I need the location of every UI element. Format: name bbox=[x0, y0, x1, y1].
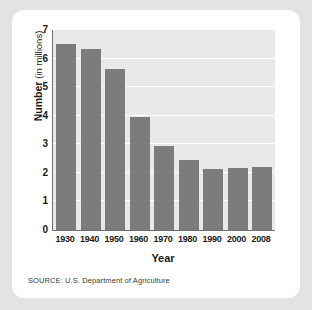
y-axis-label: Number (in millions) bbox=[32, 6, 44, 146]
y-axis-label-bold: Number bbox=[32, 82, 44, 122]
y-tick-label: 2 bbox=[32, 168, 48, 178]
chart-card: 76543210 Number (in millions) 1930194019… bbox=[12, 10, 300, 298]
bar-1970 bbox=[154, 146, 174, 230]
x-tick-label: 2000 bbox=[227, 234, 247, 244]
bar-1930 bbox=[56, 44, 76, 230]
x-tick-label: 1960 bbox=[129, 234, 149, 244]
bar-1960 bbox=[130, 117, 150, 230]
x-tick-label: 1940 bbox=[80, 234, 100, 244]
source-note: SOURCE: U.S. Department of Agriculture bbox=[28, 276, 170, 285]
bar-1940 bbox=[81, 49, 101, 230]
x-tick-label: 1970 bbox=[153, 234, 173, 244]
bar-series bbox=[53, 30, 275, 230]
x-tick-label: 1930 bbox=[55, 234, 75, 244]
x-tick-label: 1950 bbox=[104, 234, 124, 244]
bar-2008 bbox=[252, 167, 272, 230]
x-tick-label: 1980 bbox=[178, 234, 198, 244]
bar-2000 bbox=[228, 168, 248, 230]
bar-1980 bbox=[179, 160, 199, 230]
bar-chart-figure: 76543210 Number (in millions) 1930194019… bbox=[12, 10, 300, 298]
bar-1950 bbox=[105, 69, 125, 230]
plot-area bbox=[52, 30, 275, 231]
y-tick-label: 1 bbox=[32, 196, 48, 206]
x-axis-label: Year bbox=[52, 252, 274, 264]
bar-1990 bbox=[203, 169, 223, 230]
x-tick-label: 1990 bbox=[202, 234, 222, 244]
y-axis-label-unit: (in millions) bbox=[33, 31, 44, 79]
y-tick-label: 0 bbox=[32, 225, 48, 235]
x-tick-label: 2008 bbox=[251, 234, 271, 244]
x-axis-ticks: 193019401950196019701980199020002008 bbox=[52, 234, 274, 244]
